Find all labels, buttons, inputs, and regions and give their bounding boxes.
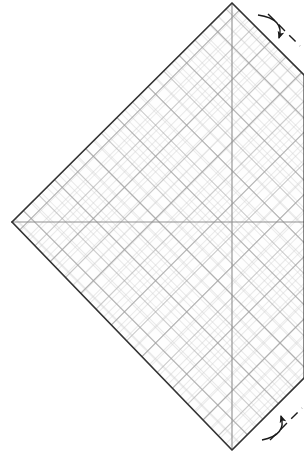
grid-wide-layer (0, 0, 304, 463)
grid-mesh (0, 0, 304, 463)
dashed-guide-top (268, 14, 300, 46)
rotation-arrow-bottom (262, 416, 282, 440)
dashed-guide-top-line (268, 14, 300, 46)
curved-arrow-bottom-path (262, 416, 282, 440)
dashed-guide-bottom-line (270, 408, 302, 440)
dashed-guide-bottom (270, 408, 302, 440)
rotated-grid-ruler-figure (0, 0, 304, 463)
diagram-canvas (0, 0, 304, 463)
